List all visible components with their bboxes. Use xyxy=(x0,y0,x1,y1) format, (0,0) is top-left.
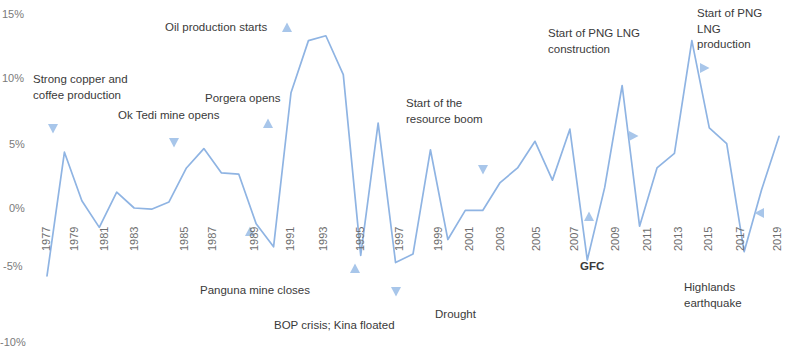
annotation-label-ok-tedi: Ok Tedi mine opens xyxy=(118,108,219,124)
x-axis-tick-2019: 2019 xyxy=(771,227,783,251)
annotation-label-oil-production-starts: Oil production starts xyxy=(165,20,267,36)
x-axis-tick-1979: 1979 xyxy=(68,227,80,251)
annotation-label-start-resource-boom: Start of the resource boom xyxy=(406,96,483,127)
annotation-marker-gfc xyxy=(584,212,594,222)
x-axis-tick-1983: 1983 xyxy=(128,227,140,251)
annotation-label-highlands-earthquake: Highlands earthquake xyxy=(684,280,742,311)
gdp-growth-line xyxy=(47,36,779,276)
gdp-growth-line-series xyxy=(47,36,779,276)
y-axis-tick-2: 5% xyxy=(9,138,25,150)
annotation-marker-oil-production-starts xyxy=(282,23,292,33)
x-axis-tick-2001: 2001 xyxy=(463,227,475,251)
annotation-label-start-png-lng-construction: Start of PNG LNG construction xyxy=(548,26,640,57)
x-axis-tick-2005: 2005 xyxy=(530,227,542,251)
x-axis-tick-2007: 2007 xyxy=(568,227,580,251)
annotation-marker-ok-tedi xyxy=(169,138,179,148)
x-axis-tick-1991: 1991 xyxy=(284,227,296,251)
x-axis-tick-2013: 2013 xyxy=(672,227,684,251)
annotation-label-porgera-opens: Porgera opens xyxy=(205,91,280,107)
x-axis-tick-1985: 1985 xyxy=(178,227,190,251)
x-axis-tick-1987: 1987 xyxy=(206,227,218,251)
x-axis-tick-1995: 1995 xyxy=(354,227,366,251)
annotation-label-start-png-lng-production: Start of PNG LNG production xyxy=(697,6,785,53)
annotation-marker-bop-crisis-kina-floated xyxy=(350,264,360,274)
annotation-label-panguna-mine-closes: Panguna mine closes xyxy=(200,283,310,299)
annotation-label-drought: Drought xyxy=(435,307,476,323)
x-axis-tick-1993: 1993 xyxy=(317,227,329,251)
annotation-marker-strong-copper-coffee xyxy=(48,124,58,134)
y-axis-tick-5: -10% xyxy=(0,336,26,348)
chart-plot-area xyxy=(0,0,785,349)
annotation-label-bop-crisis-kina-floated: BOP crisis; Kina floated xyxy=(274,318,395,334)
annotation-marker-start-resource-boom xyxy=(478,165,488,175)
annotation-label-strong-copper-coffee: Strong copper and coffee production xyxy=(33,72,128,103)
x-axis-tick-1981: 1981 xyxy=(98,227,110,251)
x-axis-tick-1997: 1997 xyxy=(393,227,405,251)
x-axis-tick-2011: 2011 xyxy=(641,227,653,251)
annotation-marker-start-png-lng-production xyxy=(700,63,710,73)
annotation-marker-group xyxy=(48,23,764,297)
annotation-label-gfc: GFC xyxy=(580,259,604,275)
y-axis-tick-3: 0% xyxy=(9,202,25,214)
annotation-marker-porgera-opens xyxy=(263,119,273,129)
y-axis-tick-4: -5% xyxy=(3,260,23,272)
annotation-marker-drought xyxy=(391,287,401,297)
x-axis-tick-1999: 1999 xyxy=(432,227,444,251)
x-axis-tick-2015: 2015 xyxy=(702,227,714,251)
gdp-growth-chart: 15%10%5%0%-5%-10% 1977197919811983198519… xyxy=(0,0,785,349)
x-axis-tick-2009: 2009 xyxy=(609,227,621,251)
x-axis-tick-2003: 2003 xyxy=(494,227,506,251)
x-axis-tick-2017: 2017 xyxy=(734,227,746,251)
x-axis-tick-1989: 1989 xyxy=(248,227,260,251)
y-axis-tick-1: 10% xyxy=(2,72,24,84)
annotation-marker-start-png-lng-construction xyxy=(629,131,639,141)
x-axis-tick-1977: 1977 xyxy=(40,227,52,251)
y-axis-tick-0: 15% xyxy=(2,8,24,20)
